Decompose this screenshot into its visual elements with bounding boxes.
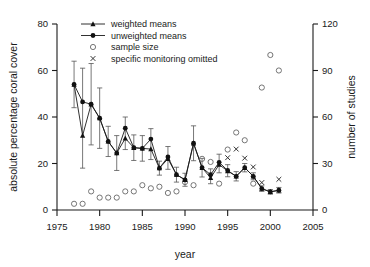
coral-cover-chart: 020406080 0306090120 1975198019851990199…	[0, 0, 370, 267]
chart-canvas: 020406080 0306090120 1975198019851990199…	[0, 0, 370, 267]
x-axis-title: year	[175, 248, 196, 260]
unweighted-mean-marker	[140, 146, 145, 151]
left-tick-label: 60	[37, 65, 48, 76]
left-tick-label: 40	[37, 111, 48, 122]
legend-label: specific monitoring omitted	[111, 54, 218, 64]
legend-label: weighted means	[110, 19, 177, 29]
unweighted-mean-marker	[131, 145, 136, 150]
legend-label: sample size	[111, 42, 159, 52]
y-axis-title: absolute percentage coral cover	[7, 42, 19, 192]
unweighted-mean-marker	[123, 126, 128, 131]
right-tick-label: 90	[322, 65, 333, 76]
x-tick-label: 1995	[217, 221, 238, 232]
x-tick-label: 1975	[46, 221, 67, 232]
left-tick-label: 0	[43, 204, 48, 215]
legend-circle-icon	[91, 33, 96, 38]
unweighted-mean-marker	[148, 137, 153, 142]
unweighted-mean-marker	[191, 141, 196, 146]
unweighted-mean-marker	[259, 186, 264, 191]
left-tick-label: 20	[37, 158, 48, 169]
unweighted-mean-marker	[251, 174, 256, 179]
x-tick-label: 1985	[132, 221, 153, 232]
legend-label: unweighted means	[111, 31, 187, 41]
right-tick-label: 120	[322, 18, 338, 29]
x-tick-label: 2005	[302, 221, 323, 232]
unweighted-mean-marker	[106, 139, 111, 144]
left-tick-label: 80	[37, 18, 48, 29]
y-axis-right-title: number of studies	[345, 75, 357, 158]
unweighted-mean-marker	[208, 172, 213, 177]
unweighted-mean-marker	[268, 189, 273, 194]
x-tick-label: 1990	[174, 221, 195, 232]
unweighted-mean-marker	[183, 177, 188, 182]
unweighted-mean-marker	[114, 151, 119, 156]
x-tick-label: 1980	[89, 221, 110, 232]
unweighted-mean-marker	[97, 116, 102, 121]
unweighted-mean-marker	[276, 188, 281, 193]
right-tick-label: 30	[322, 158, 333, 169]
unweighted-mean-marker	[72, 82, 77, 87]
right-tick-label: 0	[322, 204, 327, 215]
unweighted-mean-marker	[89, 102, 94, 107]
unweighted-mean-marker	[217, 160, 222, 165]
unweighted-mean-marker	[225, 168, 230, 173]
unweighted-mean-marker	[166, 155, 171, 160]
unweighted-mean-marker	[234, 174, 239, 179]
unweighted-mean-marker	[174, 172, 179, 177]
unweighted-mean-marker	[157, 166, 162, 171]
unweighted-mean-marker	[242, 165, 247, 170]
unweighted-mean-marker	[200, 165, 205, 170]
unweighted-mean-marker	[80, 99, 85, 104]
right-tick-label: 60	[322, 111, 333, 122]
x-tick-label: 2000	[260, 221, 281, 232]
